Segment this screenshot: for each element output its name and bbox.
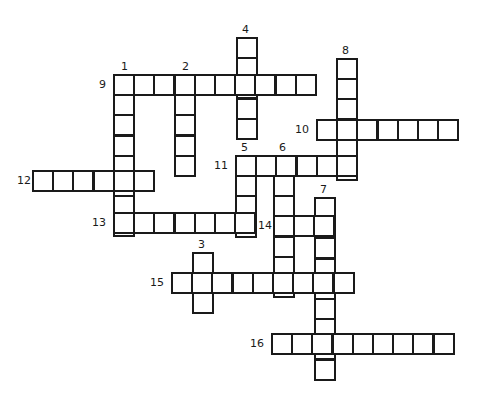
crossword-cell[interactable] bbox=[174, 94, 196, 116]
clue-number-14: 14 bbox=[258, 220, 272, 231]
crossword-cell[interactable] bbox=[336, 78, 358, 100]
crossword-cell[interactable] bbox=[352, 333, 374, 355]
crossword-cell[interactable] bbox=[336, 98, 358, 120]
crossword-cell[interactable] bbox=[291, 333, 313, 355]
crossword-cell[interactable] bbox=[153, 74, 175, 96]
crossword-cell[interactable] bbox=[153, 212, 175, 234]
crossword-cell[interactable] bbox=[192, 252, 214, 274]
crossword-cell[interactable] bbox=[293, 215, 315, 237]
crossword-cell[interactable] bbox=[52, 170, 74, 192]
crossword-cell[interactable] bbox=[174, 74, 196, 96]
crossword-cell[interactable] bbox=[252, 272, 274, 294]
clue-number-2: 2 bbox=[182, 61, 189, 72]
crossword-cell[interactable] bbox=[174, 114, 196, 136]
crossword-cell[interactable] bbox=[336, 119, 358, 141]
crossword-cell[interactable] bbox=[273, 215, 295, 237]
crossword-cell[interactable] bbox=[336, 58, 358, 80]
crossword-cell[interactable] bbox=[113, 114, 135, 136]
crossword-cell[interactable] bbox=[214, 74, 236, 96]
clue-number-1: 1 bbox=[121, 61, 128, 72]
clue-number-4: 4 bbox=[242, 24, 249, 35]
crossword-cell[interactable] bbox=[272, 272, 294, 294]
clue-number-16: 16 bbox=[250, 338, 264, 349]
clue-number-3: 3 bbox=[198, 239, 205, 250]
crossword-cell[interactable] bbox=[194, 212, 216, 234]
crossword-cell[interactable] bbox=[356, 119, 378, 141]
crossword-cell[interactable] bbox=[314, 237, 336, 259]
crossword-cell[interactable] bbox=[271, 333, 293, 355]
crossword-cell[interactable] bbox=[133, 212, 155, 234]
crossword-cell[interactable] bbox=[235, 155, 257, 177]
crossword-cell[interactable] bbox=[72, 170, 94, 192]
crossword-cell[interactable] bbox=[316, 119, 338, 141]
crossword-cell[interactable] bbox=[273, 175, 295, 197]
crossword-cell[interactable] bbox=[236, 37, 258, 59]
clue-number-9: 9 bbox=[99, 79, 106, 90]
crossword-cell[interactable] bbox=[133, 170, 155, 192]
crossword-cell[interactable] bbox=[417, 119, 439, 141]
crossword-cell[interactable] bbox=[236, 98, 258, 120]
crossword-cell[interactable] bbox=[392, 333, 414, 355]
crossword-cell[interactable] bbox=[93, 170, 115, 192]
clue-number-5: 5 bbox=[241, 142, 248, 153]
crossword-cell[interactable] bbox=[296, 155, 318, 177]
crossword-cell[interactable] bbox=[174, 155, 196, 177]
crossword-cell[interactable] bbox=[273, 236, 295, 258]
crossword-cell[interactable] bbox=[174, 212, 196, 234]
clue-number-11: 11 bbox=[214, 160, 228, 171]
clue-number-10: 10 bbox=[295, 124, 309, 135]
crossword-cell[interactable] bbox=[113, 135, 135, 157]
crossword-cell[interactable] bbox=[234, 74, 256, 96]
crossword-cell[interactable] bbox=[314, 298, 336, 320]
clue-number-6: 6 bbox=[279, 142, 286, 153]
crossword-cell[interactable] bbox=[336, 155, 358, 177]
crossword-cell[interactable] bbox=[113, 94, 135, 116]
crossword-cell[interactable] bbox=[192, 292, 214, 314]
clue-number-12: 12 bbox=[17, 175, 31, 186]
crossword-cell[interactable] bbox=[295, 74, 317, 96]
crossword-cell[interactable] bbox=[211, 272, 233, 294]
crossword-cell[interactable] bbox=[255, 155, 277, 177]
crossword-cell[interactable] bbox=[292, 272, 314, 294]
crossword-cell[interactable] bbox=[316, 155, 338, 177]
crossword-cell[interactable] bbox=[437, 119, 459, 141]
crossword-cell[interactable] bbox=[194, 74, 216, 96]
crossword-cell[interactable] bbox=[312, 272, 334, 294]
crossword-grid: 12345678910111213141516 bbox=[0, 0, 485, 393]
crossword-cell[interactable] bbox=[433, 333, 455, 355]
crossword-cell[interactable] bbox=[113, 170, 135, 192]
crossword-cell[interactable] bbox=[412, 333, 434, 355]
crossword-cell[interactable] bbox=[174, 135, 196, 157]
crossword-cell[interactable] bbox=[273, 195, 295, 217]
crossword-cell[interactable] bbox=[113, 212, 135, 234]
crossword-cell[interactable] bbox=[236, 118, 258, 140]
clue-number-8: 8 bbox=[342, 45, 349, 56]
crossword-cell[interactable] bbox=[235, 175, 257, 197]
crossword-cell[interactable] bbox=[377, 119, 399, 141]
crossword-cell[interactable] bbox=[332, 333, 354, 355]
crossword-cell[interactable] bbox=[32, 170, 54, 192]
clue-number-7: 7 bbox=[320, 184, 327, 195]
crossword-cell[interactable] bbox=[191, 272, 213, 294]
crossword-cell[interactable] bbox=[171, 272, 193, 294]
crossword-cell[interactable] bbox=[372, 333, 394, 355]
crossword-cell[interactable] bbox=[275, 74, 297, 96]
crossword-cell[interactable] bbox=[397, 119, 419, 141]
crossword-cell[interactable] bbox=[333, 272, 355, 294]
crossword-cell[interactable] bbox=[313, 215, 335, 237]
crossword-cell[interactable] bbox=[214, 212, 236, 234]
clue-number-15: 15 bbox=[150, 277, 164, 288]
crossword-cell[interactable] bbox=[113, 74, 135, 96]
crossword-cell[interactable] bbox=[311, 333, 333, 355]
crossword-cell[interactable] bbox=[275, 155, 297, 177]
clue-number-13: 13 bbox=[92, 217, 106, 228]
crossword-cell[interactable] bbox=[254, 74, 276, 96]
crossword-cell[interactable] bbox=[234, 212, 256, 234]
crossword-cell[interactable] bbox=[314, 359, 336, 381]
crossword-cell[interactable] bbox=[133, 74, 155, 96]
crossword-cell[interactable] bbox=[232, 272, 254, 294]
